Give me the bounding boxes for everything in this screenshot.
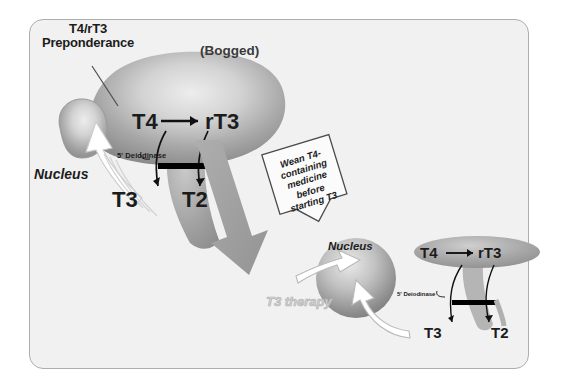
label-bogged: (Bogged) bbox=[200, 44, 259, 58]
label-t3-therapy: T3 therapy bbox=[266, 295, 332, 310]
label-deiodinase-top: 5' Deiodinase bbox=[117, 152, 166, 160]
label-t2-bottom: T2 bbox=[491, 325, 509, 341]
membrane-bar-bottom bbox=[452, 300, 498, 305]
label-t4-rt3-preponderance: T4/rT3 Preponderance bbox=[42, 22, 134, 49]
label-nucleus-top: Nucleus bbox=[34, 167, 88, 182]
figure-canvas: T4/rT3 Preponderance (Bogged) T4 rT3 T3 … bbox=[0, 0, 563, 385]
cell-body bbox=[90, 52, 286, 166]
label-t2-top: T2 bbox=[182, 188, 208, 211]
label-t4-bottom: T4 bbox=[420, 245, 438, 261]
label-rt3-bottom: rT3 bbox=[478, 245, 501, 261]
deiodinase-leader-bottom bbox=[437, 291, 445, 297]
label-deiodinase-bottom: 5' Deiodinase bbox=[397, 291, 435, 297]
label-t3-bottom: T3 bbox=[424, 325, 442, 341]
label-t3-top: T3 bbox=[112, 188, 138, 211]
label-nucleus-bottom: Nucleus bbox=[328, 240, 373, 252]
label-t4-top: T4 bbox=[132, 110, 158, 133]
label-rt3-top: rT3 bbox=[205, 110, 239, 133]
